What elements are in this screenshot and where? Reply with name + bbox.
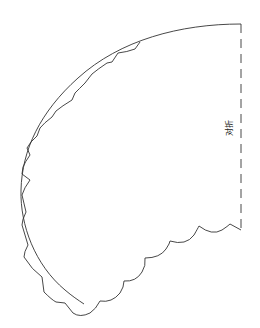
pattern-diagram: 对折 <box>0 0 260 328</box>
scalloped-edge-left <box>22 42 140 313</box>
outer-arc <box>21 24 241 304</box>
fold-label: 对折 <box>224 120 234 136</box>
scalloped-edge-bottom <box>73 224 241 316</box>
